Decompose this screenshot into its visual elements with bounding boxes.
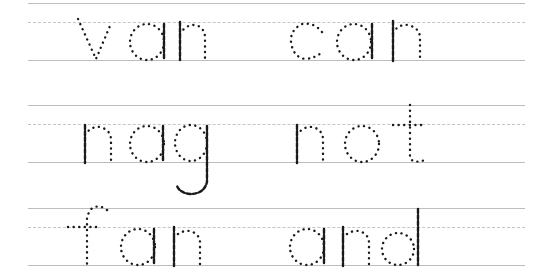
tracing-words (0, 205, 551, 278)
practice-row-2 (0, 102, 551, 202)
practice-row-1 (0, 0, 551, 100)
practice-row-3 (0, 205, 551, 278)
letter-v (78, 19, 110, 59)
tracing-words (0, 102, 551, 202)
tracing-words (0, 0, 551, 100)
